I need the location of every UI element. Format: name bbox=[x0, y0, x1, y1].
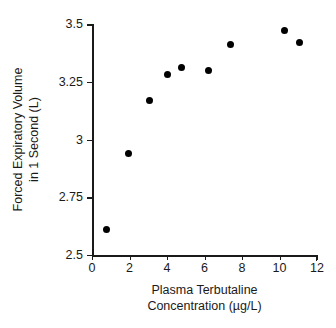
x-tick-mark bbox=[317, 255, 318, 260]
x-tick-label: 8 bbox=[239, 262, 246, 275]
y-axis-title-line-2: in 1 Second (L) bbox=[26, 97, 42, 182]
y-axis-line bbox=[92, 24, 94, 255]
x-tick-label: 12 bbox=[310, 262, 324, 275]
data-point bbox=[205, 67, 212, 74]
x-tick-label: 10 bbox=[273, 262, 287, 275]
data-point bbox=[227, 41, 234, 48]
x-tick-mark bbox=[242, 255, 243, 260]
y-axis-title-line-1: Forced Expiratory Volume bbox=[10, 68, 26, 212]
data-point bbox=[125, 150, 132, 157]
x-tick-label: 0 bbox=[89, 262, 96, 275]
x-tick-label: 4 bbox=[164, 262, 171, 275]
y-tick-label: 2.75 bbox=[59, 191, 83, 204]
x-tick-label: 2 bbox=[126, 262, 133, 275]
y-tick-label: 3.5 bbox=[66, 18, 83, 31]
data-point bbox=[296, 39, 303, 46]
x-axis-title-line-1: Plasma Terbutaline bbox=[92, 282, 317, 298]
x-tick-mark bbox=[205, 255, 206, 260]
plot-area: 2.52.7533.253.5 024681012 bbox=[92, 24, 317, 255]
scatter-chart-figure: Forced Expiratory Volume in 1 Second (L)… bbox=[0, 0, 336, 328]
x-tick-mark bbox=[130, 255, 131, 260]
x-tick-mark bbox=[167, 255, 168, 260]
y-tick-mark bbox=[87, 197, 92, 198]
x-tick-mark bbox=[280, 255, 281, 260]
y-tick-mark bbox=[87, 24, 92, 25]
x-tick-label: 6 bbox=[201, 262, 208, 275]
data-point bbox=[103, 226, 110, 233]
data-point bbox=[164, 71, 171, 78]
y-axis-title: Forced Expiratory Volume in 1 Second (L) bbox=[8, 24, 44, 255]
data-point bbox=[146, 97, 153, 104]
y-tick-label: 3 bbox=[76, 133, 83, 146]
x-axis-title: Plasma Terbutaline Concentration (µg/L) bbox=[92, 282, 317, 314]
data-point bbox=[281, 27, 288, 34]
y-tick-label: 3.25 bbox=[59, 75, 83, 88]
x-tick-mark bbox=[92, 255, 93, 260]
y-tick-mark bbox=[87, 140, 92, 141]
y-tick-mark bbox=[87, 82, 92, 83]
data-point bbox=[178, 64, 185, 71]
y-tick-label: 2.5 bbox=[66, 249, 83, 262]
x-axis-title-line-2: Concentration (µg/L) bbox=[92, 298, 317, 314]
